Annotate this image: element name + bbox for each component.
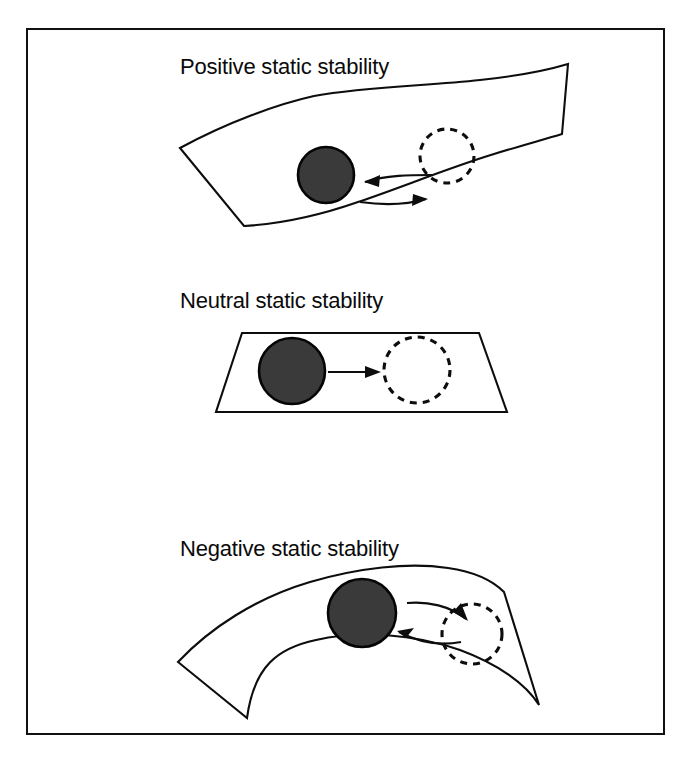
panel-negative-static-stability: Negative static stability [28,478,667,733]
panel-art-positive [28,30,667,260]
panel-positive-static-stability: Positive static stability [28,30,667,260]
panel-neutral-static-stability: Neutral static stability [28,268,667,448]
static-stability-figure: Positive static stability [0,0,699,759]
ball-positive [298,147,354,203]
ball-negative [328,579,396,647]
displacement-arrow-head-positive [412,194,428,206]
panel-art-neutral [28,268,667,448]
ball-neutral [259,338,325,404]
surface-concave-valley [180,64,568,226]
panel-art-negative [28,478,667,733]
figure-frame: Positive static stability [26,28,665,735]
